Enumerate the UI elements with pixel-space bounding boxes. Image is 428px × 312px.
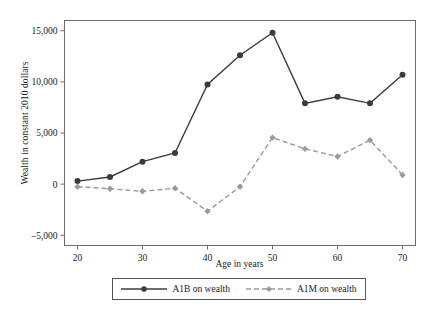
data-point-marker — [302, 100, 308, 106]
y-tick-label: 15,000 — [31, 26, 57, 36]
x-tick-label: 70 — [398, 253, 408, 263]
x-tick-label: 50 — [268, 253, 278, 263]
x-tick-label: 20 — [73, 253, 83, 263]
y-tick-label: 0 — [53, 180, 58, 190]
data-point-marker — [270, 30, 276, 36]
legend-label-a1b: A1B on wealth — [172, 284, 230, 294]
data-point-marker — [74, 183, 80, 189]
data-point-marker — [139, 188, 145, 194]
series-a1b — [75, 30, 406, 184]
data-point-marker — [237, 52, 243, 58]
x-tick-label: 30 — [138, 253, 148, 263]
data-point-marker — [400, 72, 406, 78]
data-point-marker — [140, 159, 146, 165]
y-tick-label: –5,000 — [30, 231, 57, 241]
plot-area: –5,00005,00010,00015,000 203040506070 — [0, 0, 428, 312]
data-point-marker — [302, 146, 308, 152]
legend-entry-a1m[interactable]: A1M on wealth — [246, 283, 357, 295]
series-group — [74, 30, 405, 215]
y-tick-group: –5,00005,00010,00015,000 — [30, 26, 64, 241]
x-tick-label: 40 — [203, 253, 213, 263]
chart-legend: A1B on wealth A1M on wealth — [112, 278, 366, 300]
x-tick-label: 60 — [333, 253, 343, 263]
legend-swatch-solid-line — [121, 283, 167, 295]
data-point-marker — [367, 100, 373, 106]
data-point-marker — [107, 186, 113, 192]
chart-figure: Wealth in constant 2010 dollars Age in y… — [0, 0, 428, 312]
data-point-marker — [107, 174, 113, 180]
series-line — [78, 138, 403, 212]
data-point-marker — [237, 183, 243, 189]
y-tick-label: 5,000 — [36, 128, 58, 138]
legend-swatch-dashed-line — [246, 283, 292, 295]
x-tick-group: 203040506070 — [73, 246, 408, 263]
data-point-marker — [335, 94, 341, 100]
y-tick-label: 10,000 — [31, 77, 57, 87]
data-point-marker — [75, 178, 81, 184]
data-point-marker — [205, 81, 211, 87]
data-point-marker — [172, 150, 178, 156]
legend-label-a1m: A1M on wealth — [297, 284, 357, 294]
data-point-marker — [334, 153, 340, 159]
legend-entry-a1b[interactable]: A1B on wealth — [121, 283, 230, 295]
series-a1m — [74, 134, 405, 214]
